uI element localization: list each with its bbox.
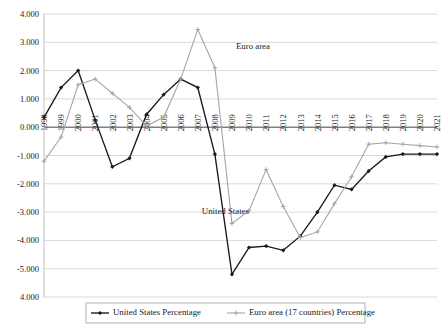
y-axis-tick-label: 2.000 [20,66,39,76]
x-axis-tick-label: 2015 [330,114,340,131]
y-axis-tick-label: 0.000 [20,122,39,132]
x-axis-tick-label: 2006 [176,114,186,131]
series-line-united-states [44,71,437,275]
x-axis-tick-label: 2007 [193,114,203,131]
y-axis-tick-label: 1.000 [20,94,39,104]
x-axis-tick-label: 2019 [398,114,408,131]
y-axis-tick-label: -2.000 [17,179,39,189]
y-axis-tick-label: 4.000 [20,292,39,302]
x-axis-tick-label: 2003 [125,114,135,131]
x-axis-tick-label: 2013 [296,114,306,131]
y-axis-tick-label: 4.000 [20,9,39,19]
chart-annotation: Euro area [236,41,270,51]
data-point-marker [264,244,268,248]
legend-item-label: Euro area (17 countries) Percentage [249,307,375,317]
x-axis-tick-label: 2017 [364,114,374,131]
chart-canvas: 4.0003.0002.0001.0000.000-1.000-2.000-3.… [0,0,443,329]
chart-annotation: United States [202,206,250,216]
x-axis-tick-label: 2020 [415,114,425,131]
y-axis-tick-label: 3.000 [20,37,39,47]
x-axis-tick-label: 2016 [347,114,357,131]
y-axis-tick-label: -5.000 [17,264,39,274]
y-axis-tick-label: -3.000 [17,207,39,217]
legend-marker-diamond-icon [98,311,102,315]
x-axis-tick-label: 2012 [278,114,288,131]
line-chart: 4.0003.0002.0001.0000.000-1.000-2.000-3.… [0,0,443,329]
y-axis-tick-label: -4.000 [17,235,39,245]
y-axis-tick-label: -1.000 [17,151,39,161]
x-axis-tick-label: 2002 [108,114,118,131]
legend-item-label: United States Percentage [113,307,201,317]
x-axis-tick-label: 2021 [432,114,442,131]
x-axis-tick-label: 2008 [210,114,220,131]
x-axis-tick-label: 2011 [261,115,271,132]
x-axis-tick-label: 2000 [73,114,83,131]
x-axis-tick-label: 2009 [227,114,237,131]
x-axis-tick-label: 2018 [381,114,391,131]
x-axis-tick-label: 2010 [244,114,254,131]
x-axis-tick-label: 2014 [313,113,323,131]
x-axis-tick-label: 1999 [56,114,66,131]
